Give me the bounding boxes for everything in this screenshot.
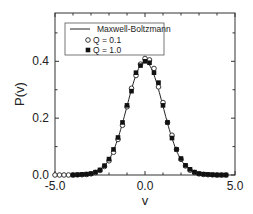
- data-point-q-1.0: [75, 172, 80, 177]
- data-point-q-1.0: [147, 60, 152, 65]
- data-point-q-1.0: [102, 163, 107, 168]
- data-point-q-1.0: [224, 173, 229, 178]
- filled-square-icon: [86, 48, 91, 53]
- legend: Maxwell-Boltzmann Q = 0.1 Q = 1.0: [65, 23, 171, 55]
- data-point-q-1.0: [116, 135, 121, 140]
- data-point-q-1.0: [197, 171, 202, 176]
- data-point-q-0.1: [62, 173, 67, 178]
- data-point-q-1.0: [183, 163, 188, 168]
- data-point-q-1.0: [120, 120, 125, 125]
- legend-label-q-0.1: Q = 0.1: [93, 35, 121, 45]
- y-axis-label: P(v): [12, 82, 27, 106]
- data-point-q-0.1: [156, 85, 161, 90]
- data-point-q-1.0: [210, 172, 215, 177]
- data-point-q-1.0: [107, 157, 112, 162]
- chart: -5.00.05.00.00.20.4 Maxwell-Boltzmann Q …: [0, 0, 253, 214]
- data-point-q-1.0: [201, 172, 206, 177]
- data-point-q-1.0: [152, 70, 157, 75]
- data-point-q-1.0: [134, 70, 139, 75]
- data-point-q-0.1: [53, 173, 58, 178]
- data-point-q-1.0: [165, 120, 170, 125]
- legend-label-q-1.0: Q = 1.0: [93, 45, 121, 55]
- data-point-q-1.0: [156, 80, 161, 85]
- x-tick-label: 5.0: [227, 179, 244, 193]
- data-point-q-1.0: [80, 172, 85, 177]
- data-point-q-1.0: [129, 89, 134, 94]
- data-point-q-1.0: [161, 103, 166, 108]
- legend-label-maxwell-boltzmann: Maxwell-Boltzmann: [97, 24, 171, 34]
- data-point-q-1.0: [219, 173, 224, 178]
- x-tick-label: 0.0: [137, 179, 154, 193]
- data-point-q-1.0: [174, 147, 179, 152]
- data-point-q-1.0: [192, 170, 197, 175]
- data-point-q-0.1: [152, 66, 157, 71]
- open-circle-icon: [86, 38, 91, 43]
- y-tick-label: 0.0: [32, 168, 49, 182]
- data-point-q-1.0: [98, 168, 103, 173]
- y-tick-label: 0.4: [32, 54, 49, 68]
- data-point-q-1.0: [93, 170, 98, 175]
- data-point-q-0.1: [66, 173, 71, 178]
- data-point-q-1.0: [138, 63, 143, 68]
- data-point-q-1.0: [179, 156, 184, 161]
- data-point-q-1.0: [188, 167, 193, 172]
- data-point-q-1.0: [215, 173, 220, 178]
- data-point-q-1.0: [143, 59, 148, 64]
- data-point-q-1.0: [89, 171, 94, 176]
- data-point-q-1.0: [125, 103, 130, 108]
- data-point-q-1.0: [206, 172, 211, 177]
- x-axis-label: v: [142, 193, 149, 208]
- y-tick-label: 0.2: [32, 111, 49, 125]
- data-point-q-1.0: [71, 173, 76, 178]
- data-point-q-0.1: [57, 173, 62, 178]
- data-point-q-1.0: [111, 147, 116, 152]
- data-point-q-1.0: [84, 172, 89, 177]
- data-point-q-1.0: [170, 136, 175, 141]
